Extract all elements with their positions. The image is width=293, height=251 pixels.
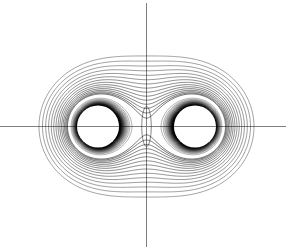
contour-plot-canvas (0, 0, 293, 251)
contour-plot-figure (0, 0, 293, 251)
axes-group (0, 3, 286, 247)
